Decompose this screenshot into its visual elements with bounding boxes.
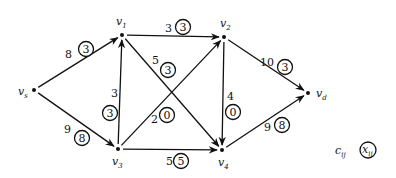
legend-capacity-label: cij [335, 144, 346, 159]
edge-capacity-label: 3 [165, 22, 172, 35]
edge-flow-label: 3 [180, 21, 187, 34]
node-label-v4: v4 [218, 156, 229, 171]
node-label-v3: v3 [112, 155, 123, 170]
node-v3 [116, 147, 120, 151]
edge-capacity-label: 2 [151, 113, 158, 126]
legend: cij xij [335, 142, 376, 159]
edge-v2-v4 [222, 42, 224, 145]
node-label-vd: vd [316, 87, 327, 102]
edges: 839833533320554010398 [38, 20, 304, 169]
edge-flow-label: 5 [178, 155, 185, 168]
edge-v3-v4 [123, 149, 217, 150]
edge-capacity-label: 4 [227, 90, 234, 103]
edge-flow-label: 3 [165, 64, 172, 77]
edge-flow-label: 0 [164, 109, 171, 122]
node-v1 [120, 33, 124, 37]
edge-capacity-label: 3 [111, 87, 118, 100]
node-label-vs: vs [18, 85, 28, 100]
edge-capacity-label: 9 [264, 121, 271, 134]
edge-v3-v2 [121, 41, 220, 146]
edge-flow-label: 8 [79, 132, 86, 145]
edge-v1-v2 [127, 35, 219, 37]
edge-flow-label: 3 [83, 43, 90, 56]
node-label-v1: v1 [116, 15, 127, 30]
edge-flow-label: 8 [279, 119, 286, 132]
node-vd [306, 91, 310, 95]
edge-capacity-label: 9 [64, 123, 71, 136]
node-v2 [222, 35, 226, 39]
node-v4 [220, 148, 224, 152]
edge-capacity-label: 8 [65, 48, 72, 61]
edge-capacity-label: 5 [166, 155, 173, 168]
edge-flow-label: 0 [230, 106, 237, 119]
edge-flow-label: 3 [107, 107, 114, 120]
edge-vs-v1 [38, 38, 118, 88]
edge-capacity-label: 10 [260, 56, 274, 69]
edge-v3-v1 [118, 40, 122, 144]
node-label-v2: v2 [220, 17, 231, 32]
edge-capacity-label: 5 [152, 54, 159, 67]
flow-network-diagram: 839833533320554010398 vsv1v2v3v4vd cij x… [0, 0, 396, 178]
node-vs [32, 88, 36, 92]
edge-flow-label: 3 [282, 61, 289, 74]
